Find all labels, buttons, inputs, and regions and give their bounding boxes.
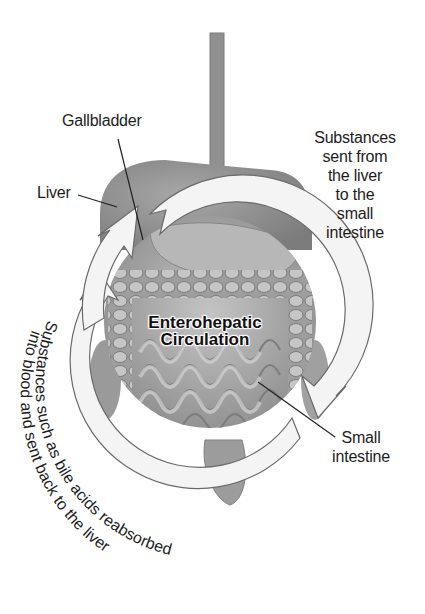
gallbladder-label: Gallbladder bbox=[62, 112, 142, 130]
small-intestine-label: Small intestine bbox=[326, 428, 396, 466]
diagram-title: Enterohepatic Circulation bbox=[130, 314, 280, 348]
to-intestine-flow-label: Substances sent from the liver to the sm… bbox=[305, 128, 405, 242]
liver-label: Liver bbox=[37, 184, 71, 202]
enterohepatic-diagram: Substances such as bile acids reabsorbed… bbox=[0, 0, 425, 614]
anatomy-illustration: Substances such as bile acids reabsorbed… bbox=[0, 0, 425, 614]
